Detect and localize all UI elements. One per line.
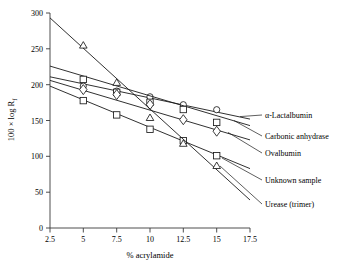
data-point-marker: [214, 119, 220, 125]
line-chart: 300 250 200 150 100 50 0 2.5 5 7.5 10 12…: [0, 0, 346, 273]
y-axis-title-subscript: f: [12, 99, 18, 101]
legend-label-ovalbumin: Ovalbumin: [265, 149, 301, 158]
data-point-marker: [80, 42, 88, 49]
data-point-marker: [180, 115, 187, 125]
data-point-marker: [147, 126, 153, 132]
y-tick-label-300: 300: [31, 9, 43, 18]
y-tick-group: 300 250 200 150 100 50 0: [31, 9, 50, 233]
legend-label-alpha-lactalbumin: α-Lactalbumin: [265, 111, 312, 120]
y-tick-label-150: 150: [31, 117, 43, 126]
y-tick-label-250: 250: [31, 45, 43, 54]
chart-figure: 300 250 200 150 100 50 0 2.5 5 7.5 10 12…: [0, 0, 346, 273]
data-point-marker: [113, 79, 121, 86]
legend-leader-unknown-sample: [222, 158, 262, 180]
data-point-marker: [80, 97, 86, 103]
x-tick-label-12-5: 12.5: [176, 235, 190, 244]
legend-leader-carbonic-anhydrase: [234, 121, 262, 136]
y-tick-label-0: 0: [39, 224, 43, 233]
data-point-marker: [214, 153, 220, 159]
legend-label-urease-trimer: Urease (trimer): [265, 200, 314, 209]
data-point-marker: [180, 106, 186, 112]
data-point-marker: [214, 107, 220, 113]
legend-leader-urease-trimer: [220, 166, 262, 204]
data-point-marker: [213, 126, 220, 136]
legend-label-carbonic-anhydrase: Carbonic anhydrase: [265, 132, 329, 141]
y-tick-label-50: 50: [35, 188, 43, 197]
data-point-marker: [114, 112, 120, 118]
x-tick-label-17-5: 17.5: [243, 235, 257, 244]
x-tick-label-10: 10: [146, 235, 154, 244]
legend-group: α-Lactalbumin Carbonic anhydrase Ovalbum…: [220, 111, 329, 209]
data-point-marker: [213, 162, 221, 169]
y-tick-label-200: 200: [31, 81, 43, 90]
y-axis-title: 100 × log Rf: [6, 99, 18, 141]
x-tick-label-5: 5: [81, 235, 85, 244]
data-point-marker: [80, 76, 86, 82]
x-tick-label-7-5: 7.5: [112, 235, 122, 244]
x-tick-label-2-5: 2.5: [45, 235, 55, 244]
y-axis-title-main: 100 × log R: [6, 100, 16, 141]
x-tick-label-15: 15: [213, 235, 221, 244]
y-tick-label-100: 100: [31, 152, 43, 161]
legend-leader-alpha-lactalbumin: [240, 115, 262, 117]
data-point-marker: [146, 114, 154, 121]
svg-text:100 × log Rf: 100 × log Rf: [6, 99, 18, 141]
legend-leader-ovalbumin: [228, 132, 262, 153]
x-tick-group: 2.5 5 7.5 10 12.5 15 17.5: [45, 228, 257, 244]
legend-label-unknown-sample: Unknown sample: [265, 176, 322, 185]
x-axis-title: % acrylamide: [127, 250, 174, 260]
